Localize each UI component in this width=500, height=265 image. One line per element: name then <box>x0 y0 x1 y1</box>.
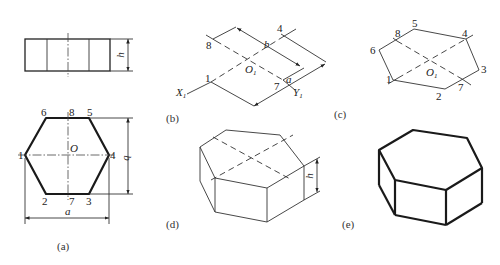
vertex-6-label: 6 <box>370 44 376 56</box>
panel-b: 8 4 1 7 O1 X1 Y1 b a (b) <box>166 22 326 125</box>
dim-a-label: a <box>286 73 292 85</box>
point-4-label: 4 <box>277 22 283 34</box>
vertex-4-label: 4 <box>462 27 468 39</box>
height-b-label: b <box>122 155 134 161</box>
caption-a: (a) <box>57 240 70 253</box>
panel-a: h 1 2 3 4 5 6 7 8 O a b (a) <box>18 33 134 253</box>
vertex-5-label: 5 <box>87 106 93 118</box>
point-8-label: 8 <box>206 39 212 51</box>
vertex-3-label: 3 <box>86 195 92 207</box>
panel-d: h (d) <box>166 130 320 231</box>
panel-c: 1 2 3 4 5 6 7 8 O1 (c) <box>334 17 487 121</box>
vertex-1-label: 1 <box>18 149 24 161</box>
caption-b: (b) <box>166 112 179 125</box>
hexagonal-prism-axonometric-figure: h 1 2 3 4 5 6 7 8 O a b (a) <box>0 0 500 265</box>
vertex-5-label: 5 <box>412 17 418 29</box>
axis-y1-label: Y1 <box>293 86 303 100</box>
front-height-label: h <box>114 52 126 58</box>
vertex-1-label: 1 <box>386 73 392 85</box>
vertex-8-label: 8 <box>69 106 75 118</box>
caption-e: (e) <box>342 218 355 231</box>
center-o1-label: O1 <box>245 63 256 77</box>
vertex-4-label: 4 <box>110 149 116 161</box>
point-7-label: 7 <box>274 80 280 92</box>
caption-d: (d) <box>166 218 179 231</box>
panel-e: (e) <box>342 130 482 231</box>
dim-b-label: b <box>264 38 270 50</box>
top-view: 1 2 3 4 5 6 7 8 O a b <box>18 106 134 224</box>
height-h-label: h <box>303 173 315 179</box>
vertex-8-label: 8 <box>395 27 401 39</box>
vertex-3-label: 3 <box>481 63 487 75</box>
vertex-2-label: 2 <box>436 90 442 102</box>
center-o-label: O <box>70 142 78 154</box>
point-1-label: 1 <box>205 72 211 84</box>
width-a-label: a <box>65 205 71 217</box>
axis-x1-label: X1 <box>175 86 186 100</box>
vertex-7-label: 7 <box>458 81 464 93</box>
center-o1-label: O1 <box>426 66 437 80</box>
front-view: h <box>25 33 133 77</box>
vertex-2-label: 2 <box>42 195 48 207</box>
vertex-6-label: 6 <box>41 106 47 118</box>
caption-c: (c) <box>334 108 347 121</box>
